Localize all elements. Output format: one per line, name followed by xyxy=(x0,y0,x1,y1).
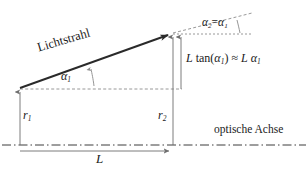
alpha1-subscript: 1 xyxy=(67,75,71,84)
approx-sign: ≈ xyxy=(231,51,238,65)
angle-alpha1-pointer xyxy=(91,69,94,86)
optical-axis-label: optische Achse xyxy=(214,124,283,136)
angle-label-alpha1: α1 xyxy=(61,70,71,84)
diagram-canvas xyxy=(0,0,308,173)
L-symbol: L xyxy=(96,151,103,166)
angle-alpha2-pointer xyxy=(237,20,240,33)
angle-identity-label: α2=α1 xyxy=(202,17,228,30)
relation-L2-symbol: L xyxy=(241,51,248,65)
relation-L-symbol: L xyxy=(186,51,193,65)
relation-alpha2-subscript: 1 xyxy=(257,57,261,66)
height-label-r1: r1 xyxy=(23,109,31,123)
r1-subscript: 1 xyxy=(28,114,32,123)
r2-subscript: 2 xyxy=(163,114,167,123)
relation-label-ltan: L tan(α1) ≈ L α1 xyxy=(186,52,261,66)
distance-label-L: L xyxy=(96,152,103,165)
height-label-r2: r2 xyxy=(158,109,166,123)
optical-ray-diagram: Lichtstrahl α1 α2=α1 L tan(α1) ≈ L α1 r1… xyxy=(0,0,308,173)
relation-tan-text: tan( xyxy=(196,51,215,65)
alpha1-rhs-subscript: 1 xyxy=(224,22,228,30)
relation-close-paren: ) xyxy=(224,51,228,65)
